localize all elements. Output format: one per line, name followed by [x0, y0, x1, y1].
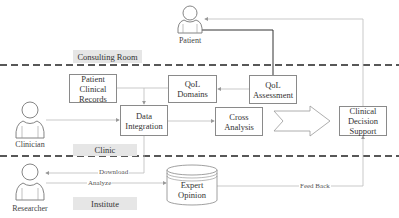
zone-label-clinic: Clinic	[73, 144, 137, 156]
actor-researcher-label: Researcher	[0, 204, 60, 213]
node-text: Integration	[125, 121, 162, 131]
big-arrow-shape	[274, 106, 330, 136]
node-text: QoL	[265, 80, 281, 90]
node-cross-analysis: Cross Analysis	[215, 107, 263, 136]
node-text: Patient	[81, 74, 105, 84]
edge-label-analyze: Analyze	[87, 179, 112, 187]
node-text: Expert	[167, 180, 217, 190]
node-text: QoL	[185, 79, 201, 89]
node-text: Analysis	[224, 122, 254, 132]
node-expert-opinion: Expert Opinion	[167, 180, 217, 200]
node-text: Clinical	[350, 106, 377, 116]
node-data-integration: Data Integration	[120, 105, 168, 136]
person-icon-clinician	[16, 102, 44, 138]
node-text: Assessment	[253, 90, 293, 100]
node-text: Records	[79, 94, 107, 104]
person-icon-researcher	[16, 164, 44, 200]
zone-label-consulting-room: Consulting Room	[73, 50, 142, 63]
node-text: Support	[350, 126, 377, 136]
person-icon-patient	[178, 6, 202, 33]
edge-label-download: Download	[98, 168, 129, 176]
node-text: Domains	[177, 89, 208, 99]
node-clinical-decision-support: Clinical Decision Support	[339, 106, 387, 136]
zone-label-institute: Institute	[73, 197, 137, 210]
actor-clinician-label: Clinician	[0, 140, 60, 149]
node-text: Decision	[348, 116, 378, 126]
node-qol-assessment: QoL Assessment	[249, 75, 297, 104]
node-text: Cross	[229, 112, 248, 122]
actor-patient-label: Patient	[160, 36, 220, 45]
node-patient-clinical-records: Patient Clinical Records	[69, 74, 117, 103]
node-text: Clinical	[80, 84, 107, 94]
node-text: Opinion	[167, 190, 217, 200]
edge-expert-to-cds	[217, 136, 363, 186]
edge-records-to-integration	[116, 88, 144, 104]
edge-label-feed-back: Feed Back	[299, 182, 331, 190]
node-qol-domains: QoL Domains	[168, 75, 217, 103]
node-text: Data	[136, 111, 152, 121]
